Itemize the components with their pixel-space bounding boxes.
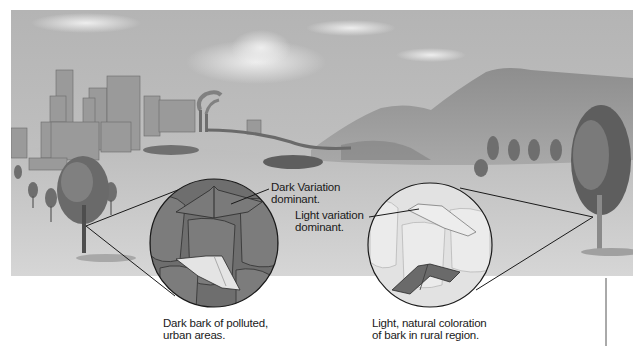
urban-caption-line2: urban areas. — [163, 329, 268, 341]
rural-caption-line1: Light, natural coloration — [372, 317, 487, 329]
dark-variation-line2: dominant. — [271, 193, 340, 205]
light-variation-line1: Light variation — [295, 209, 364, 221]
light-variation-line2: dominant. — [295, 221, 364, 233]
dark-variation-line1: Dark Variation — [271, 181, 340, 193]
rural-caption: Light, natural coloration of bark in rur… — [372, 317, 487, 341]
urban-caption: Dark bark of polluted, urban areas. — [163, 317, 268, 341]
landscape-illustration — [11, 10, 633, 276]
urban-caption-line1: Dark bark of polluted, — [163, 317, 268, 329]
rural-caption-line2: of bark in rural region. — [372, 329, 487, 341]
light-variation-callout: Light variation dominant. — [295, 209, 364, 233]
dark-variation-callout: Dark Variation dominant. — [271, 181, 340, 205]
